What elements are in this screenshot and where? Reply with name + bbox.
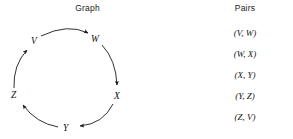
graph-node-y: Y [63, 124, 68, 134]
pair-item: (Y, Z) [197, 86, 293, 107]
graph-node-z: Z [11, 91, 16, 101]
pair-item: (X, Y) [197, 65, 293, 86]
graph-panel: Graph V W X Y Z [0, 0, 175, 139]
figure-graph-and-pairs: Graph V W X Y Z Pairs [0, 0, 293, 139]
pair-item: (V, W) [197, 23, 293, 44]
pair-item: (Z, V) [197, 107, 293, 128]
edge-z-to-v [14, 50, 27, 88]
graph-node-w: W [91, 35, 99, 45]
edge-v-to-w [41, 29, 88, 36]
graph-diagram [0, 0, 175, 139]
pairs-panel: Pairs (V, W) (W, X) (X, Y) (Y, Z) (Z, V) [175, 0, 293, 139]
graph-node-v: V [31, 37, 37, 47]
pairs-list: (V, W) (W, X) (X, Y) (Y, Z) (Z, V) [175, 23, 293, 128]
pairs-title: Pairs [175, 3, 293, 13]
edge-w-to-x [102, 45, 117, 85]
edge-x-to-y [80, 104, 113, 126]
graph-node-x: X [114, 92, 120, 102]
pair-item: (W, X) [197, 44, 293, 65]
edge-y-to-z [23, 105, 58, 127]
